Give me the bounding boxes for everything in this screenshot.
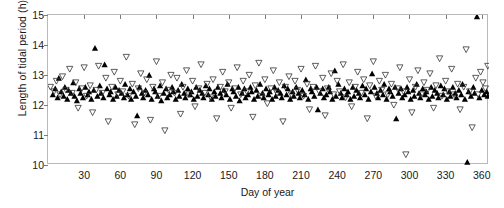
marker-triangle-up bbox=[102, 61, 108, 67]
marker-triangle-down bbox=[105, 119, 111, 125]
marker-triangle-down bbox=[349, 104, 355, 110]
marker-triangle-up bbox=[143, 87, 149, 93]
marker-triangle-down bbox=[322, 113, 328, 119]
marker-triangle-down bbox=[256, 60, 262, 66]
marker-triangle-down bbox=[123, 54, 129, 60]
y-axis-tick-label: 14 bbox=[32, 39, 44, 51]
x-axis-tick-mark bbox=[120, 15, 121, 19]
x-axis-tick-mark bbox=[409, 15, 410, 19]
marker-triangle-down bbox=[103, 75, 109, 81]
marker-triangle-up bbox=[359, 82, 365, 88]
marker-triangle-up bbox=[169, 84, 175, 90]
x-axis-tick-label: 30 bbox=[78, 169, 90, 181]
y-axis-tick-label: 15 bbox=[32, 9, 44, 21]
marker-triangle-up bbox=[253, 87, 259, 93]
marker-triangle-down bbox=[403, 152, 409, 158]
marker-triangle-down bbox=[276, 80, 282, 86]
y-axis-tick-mark bbox=[44, 165, 48, 166]
marker-triangle-up bbox=[429, 93, 435, 99]
marker-triangle-down bbox=[250, 114, 256, 120]
marker-triangle-up bbox=[293, 84, 299, 90]
marker-triangle-down bbox=[340, 62, 346, 68]
x-axis-tick-mark bbox=[482, 15, 483, 19]
series-filled-triangle-up bbox=[50, 15, 489, 165]
marker-triangle-down bbox=[409, 110, 415, 116]
marker-triangle-down bbox=[376, 78, 382, 84]
marker-triangle-down bbox=[286, 74, 292, 80]
marker-triangle-up bbox=[371, 84, 377, 90]
y-axis-tick-mark bbox=[44, 45, 48, 46]
marker-triangle-down bbox=[320, 75, 326, 81]
y-axis-tick-label: 13 bbox=[32, 69, 44, 81]
marker-triangle-down bbox=[298, 66, 304, 72]
x-axis-tick-mark bbox=[84, 15, 85, 19]
marker-triangle-down bbox=[262, 77, 268, 83]
x-axis-tick-label: 60 bbox=[114, 169, 126, 181]
marker-triangle-down bbox=[67, 66, 73, 72]
marker-triangle-down bbox=[264, 101, 270, 107]
marker-triangle-down bbox=[132, 122, 138, 128]
marker-triangle-down bbox=[449, 66, 455, 72]
y-axis-tick-mark bbox=[44, 15, 48, 16]
marker-triangle-down bbox=[306, 107, 312, 113]
marker-triangle-up bbox=[185, 85, 191, 91]
plot-area: 1011121314153060901201501802102402703003… bbox=[47, 14, 488, 164]
marker-triangle-up bbox=[351, 93, 357, 99]
tidal-period-scatter-figure: Length of tidal period (h) 1011121314153… bbox=[0, 0, 504, 208]
marker-triangle-up bbox=[464, 159, 470, 165]
marker-triangle-up bbox=[91, 87, 97, 93]
marker-triangle-up bbox=[175, 87, 181, 93]
marker-triangle-down bbox=[397, 65, 403, 71]
marker-triangle-down bbox=[270, 68, 276, 74]
marker-triangle-down bbox=[220, 69, 226, 75]
marker-triangle-down bbox=[228, 105, 234, 111]
marker-triangle-down bbox=[280, 119, 286, 125]
marker-triangle-up bbox=[393, 115, 399, 121]
marker-triangle-up bbox=[92, 45, 98, 51]
x-axis-tick-label: 240 bbox=[328, 169, 346, 181]
marker-triangle-down bbox=[437, 56, 443, 62]
y-axis-tick-label: 11 bbox=[33, 129, 44, 141]
marker-triangle-down bbox=[427, 71, 433, 77]
x-axis-tick-mark bbox=[337, 15, 338, 19]
marker-triangle-down bbox=[210, 77, 216, 83]
x-axis-tick-label: 150 bbox=[220, 169, 238, 181]
x-axis-tick-mark bbox=[229, 15, 230, 19]
marker-triangle-up bbox=[381, 81, 387, 87]
marker-triangle-down bbox=[198, 62, 204, 68]
marker-triangle-up bbox=[474, 15, 480, 19]
x-axis-tick-mark bbox=[156, 15, 157, 19]
marker-triangle-down bbox=[469, 125, 475, 131]
marker-triangle-down bbox=[147, 117, 153, 123]
marker-triangle-down bbox=[292, 78, 298, 84]
marker-triangle-down bbox=[480, 80, 486, 86]
x-axis-tick-label: 210 bbox=[292, 169, 310, 181]
marker-triangle-down bbox=[144, 77, 150, 83]
marker-triangle-down bbox=[370, 59, 376, 65]
marker-triangle-down bbox=[312, 63, 318, 69]
marker-triangle-down bbox=[477, 69, 483, 75]
marker-triangle-down bbox=[111, 69, 117, 75]
marker-triangle-down bbox=[138, 71, 144, 77]
marker-triangle-down bbox=[96, 63, 102, 69]
marker-triangle-up bbox=[70, 79, 76, 85]
marker-triangle-down bbox=[117, 78, 123, 84]
marker-triangle-up bbox=[122, 81, 128, 87]
y-axis-tick-mark bbox=[44, 135, 48, 136]
y-axis-label: Length of tidal period (h) bbox=[16, 0, 28, 138]
y-axis-tick-mark bbox=[44, 75, 48, 76]
marker-triangle-down bbox=[240, 78, 246, 84]
x-axis-tick-mark bbox=[301, 15, 302, 19]
marker-triangle-down bbox=[382, 72, 388, 78]
marker-triangle-down bbox=[174, 75, 180, 81]
marker-triangle-down bbox=[153, 59, 159, 65]
marker-triangle-up bbox=[179, 81, 185, 87]
marker-triangle-up bbox=[62, 84, 68, 90]
marker-triangle-up bbox=[414, 81, 420, 87]
marker-triangle-down bbox=[87, 83, 93, 89]
x-axis-tick-label: 90 bbox=[151, 169, 163, 181]
x-axis-tick-label: 300 bbox=[401, 169, 419, 181]
marker-triangle-down bbox=[463, 47, 469, 53]
x-axis-tick-mark bbox=[446, 15, 447, 19]
marker-triangle-down bbox=[81, 65, 87, 71]
